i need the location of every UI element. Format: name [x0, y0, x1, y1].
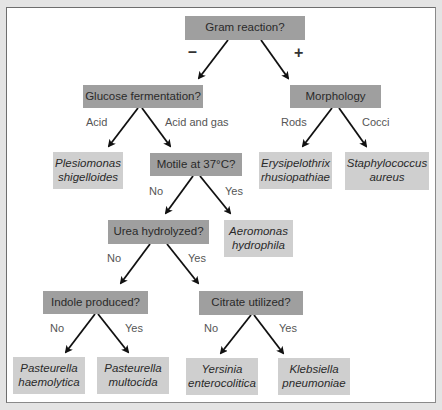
branch-label-citrate-no: No — [204, 322, 218, 334]
arrow-citrate-no — [221, 315, 251, 353]
result-species: hydrophila — [232, 239, 285, 253]
arrow-urea-no — [121, 244, 150, 283]
result-genus: Erysipelothrix — [261, 157, 330, 171]
arrow-indole-no — [66, 314, 95, 352]
branch-label-motile-yes: Yes — [225, 185, 243, 197]
result-species: haemolytica — [18, 376, 79, 390]
arrows-layer — [0, 0, 442, 410]
node-label: Indole produced? — [51, 296, 140, 310]
result-pasteurella-haemolytica: Pasteurella haemolytica — [13, 357, 85, 394]
branch-label-acid-gas: Acid and gas — [165, 116, 229, 128]
branch-label-indole-yes: Yes — [125, 322, 143, 334]
branch-label-indole-no: No — [50, 322, 64, 334]
node-label: Morphology — [305, 90, 365, 104]
arrow-gram-pos — [261, 40, 288, 78]
branch-label-urea-no: No — [107, 252, 121, 264]
arrow-citrate-yes — [254, 315, 283, 353]
arrow-gram-neg — [199, 40, 228, 78]
result-species: aureus — [369, 171, 404, 185]
branch-label-rods: Rods — [281, 116, 307, 128]
node-label: Glucose fermentation? — [85, 90, 201, 104]
node-urea: Urea hydrolyzed? — [108, 220, 209, 244]
branch-label-gram-negative: – — [188, 43, 197, 61]
result-genus: Plesiomonas — [55, 157, 121, 171]
result-species: pneumoniae — [282, 377, 345, 391]
arrow-motile-no — [166, 176, 193, 213]
result-erysipelothrix: Erysipelothrix rhusiopathiae — [259, 152, 332, 189]
result-species: multocida — [108, 376, 157, 390]
result-pasteurella-multocida: Pasteurella multocida — [97, 357, 169, 394]
arrow-glucose-acid — [109, 108, 138, 146]
arrow-morph-rods — [303, 108, 332, 146]
result-yersinia: Yersinia enterocolitica — [186, 358, 258, 395]
branch-label-citrate-yes: Yes — [279, 322, 297, 334]
node-motile: Motile at 37°C? — [150, 153, 242, 176]
result-plesiomonas: Plesiomonas shigelloides — [53, 152, 123, 189]
node-glucose-fermentation: Glucose fermentation? — [83, 85, 203, 108]
node-label: Motile at 37°C? — [157, 158, 236, 172]
result-genus: Yersinia — [202, 363, 243, 377]
node-label: Citrate utilized? — [211, 296, 290, 310]
result-species: rhusiopathiae — [261, 171, 330, 185]
result-species: enterocolitica — [188, 377, 256, 391]
node-label: Urea hydrolyzed? — [113, 225, 203, 239]
branch-label-urea-yes: Yes — [188, 252, 206, 264]
node-indole: Indole produced? — [43, 291, 148, 314]
result-genus: Pasteurella — [104, 362, 162, 376]
node-citrate: Citrate utilized? — [199, 291, 303, 315]
result-species: shigelloides — [58, 171, 118, 185]
node-morphology: Morphology — [290, 85, 381, 108]
result-genus: Staphylococcus — [347, 157, 428, 171]
arrow-indole-yes — [98, 314, 128, 352]
result-genus: Pasteurella — [20, 362, 78, 376]
branch-label-cocci: Cocci — [362, 116, 390, 128]
node-gram-reaction: Gram reaction? — [185, 16, 305, 40]
branch-label-acid: Acid — [86, 116, 107, 128]
result-klebsiella: Klebsiella pneumoniae — [278, 358, 350, 395]
result-genus: Klebsiella — [289, 363, 338, 377]
result-staphylococcus: Staphylococcus aureus — [345, 152, 429, 190]
branch-label-motile-no: No — [149, 185, 163, 197]
branch-label-gram-positive: + — [294, 44, 303, 62]
node-label: Gram reaction? — [205, 21, 284, 35]
result-genus: Aeromonas — [229, 225, 288, 239]
result-aeromonas: Aeromonas hydrophila — [224, 220, 293, 257]
